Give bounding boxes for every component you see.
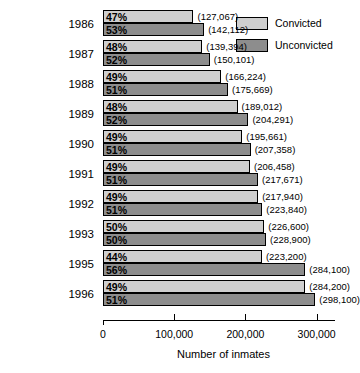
bar-percent-label: 44% (106, 250, 127, 264)
bar-unconvicted: 51% (103, 173, 258, 186)
bar-convicted: 48% (103, 100, 238, 113)
bar-percent-label: 52% (106, 113, 127, 127)
bar-percent-label: 56% (106, 263, 127, 277)
bar-percent-label: 50% (106, 220, 127, 234)
bar-unconvicted: 52% (103, 53, 210, 66)
bar-value-label: (127,067) (197, 10, 238, 23)
bar-value-label: (175,669) (232, 83, 273, 96)
bar-percent-label: 49% (106, 70, 127, 84)
bar-convicted: 49% (103, 70, 221, 83)
bar-value-label: (142,112) (208, 23, 248, 36)
x-axis-title: Number of inmates (0, 348, 357, 360)
bar-value-label: (284,100) (309, 263, 350, 276)
year-label: 1987 (0, 40, 98, 68)
bar-percent-label: 47% (106, 10, 127, 24)
x-axis-tick-label: 300,000 (298, 328, 336, 340)
bar-percent-label: 51% (106, 83, 127, 97)
x-axis-tick-label: 100,000 (155, 328, 193, 340)
bar-group: 198948%(189,012)52%(204,291) (0, 100, 357, 128)
bar-group: 199149%(206,458)51%(217,671) (0, 160, 357, 188)
bar-unconvicted: 51% (103, 83, 228, 96)
bar-convicted: 50% (103, 220, 264, 233)
bar-value-label: (150,101) (214, 53, 255, 66)
bar-value-label: (228,900) (270, 233, 311, 246)
year-label: 1991 (0, 160, 98, 188)
x-axis-tick (317, 314, 318, 321)
bars-container: 49%(217,940)51%(223,840) (103, 190, 357, 218)
bar-convicted: 49% (103, 160, 250, 173)
bar-unconvicted: 56% (103, 263, 305, 276)
bar-group: 198849%(166,224)51%(175,669) (0, 70, 357, 98)
bar-value-label: (195,661) (246, 130, 287, 143)
x-axis-title-text: Number of inmates (87, 348, 270, 360)
bar-value-label: (139,394) (206, 40, 247, 53)
bar-value-label: (223,840) (266, 203, 307, 216)
bar-percent-label: 48% (106, 100, 127, 114)
bar-percent-label: 51% (106, 293, 127, 307)
bars-container: 48%(139,394)52%(150,101) (103, 40, 357, 68)
year-label: 1996 (0, 280, 98, 308)
bars-container: 49%(206,458)51%(217,671) (103, 160, 357, 188)
bar-percent-label: 49% (106, 280, 127, 294)
year-label: 1990 (0, 130, 98, 158)
bar-group: 199544%(223,200)56%(284,100) (0, 250, 357, 278)
x-axis-line (103, 320, 335, 321)
bar-group: 198647%(127,067)53%(142,112) (0, 10, 357, 38)
bar-value-label: (298,100) (319, 293, 360, 306)
year-label: 1989 (0, 100, 98, 128)
bar-value-label: (189,012) (242, 100, 283, 113)
bar-percent-label: 51% (106, 143, 127, 157)
year-label: 1986 (0, 10, 98, 38)
bar-percent-label: 51% (106, 173, 127, 187)
bar-group: 199649%(284,200)51%(298,100) (0, 280, 357, 308)
x-axis-tick (245, 314, 246, 321)
bar-convicted: 49% (103, 280, 305, 293)
bar-value-label: (284,200) (309, 280, 350, 293)
bar-convicted: 48% (103, 40, 202, 53)
bars-container: 48%(189,012)52%(204,291) (103, 100, 357, 128)
bar-convicted: 49% (103, 190, 258, 203)
bar-unconvicted: 51% (103, 203, 262, 216)
bar-value-label: (204,291) (252, 113, 293, 126)
x-axis-tick-label: 200,000 (226, 328, 264, 340)
bars-container: 49%(284,200)51%(298,100) (103, 280, 357, 308)
year-label: 1988 (0, 70, 98, 98)
bars-container: 50%(226,600)50%(228,900) (103, 220, 357, 248)
bar-value-label: (217,940) (262, 190, 303, 203)
bar-unconvicted: 50% (103, 233, 266, 246)
bars-container: 49%(195,661)51%(207,358) (103, 130, 357, 158)
bar-unconvicted: 53% (103, 23, 204, 36)
bar-value-label: (207,358) (255, 143, 296, 156)
x-axis-left-cap (103, 320, 104, 325)
bars-container: 49%(166,224)51%(175,669) (103, 70, 357, 98)
bar-convicted: 44% (103, 250, 262, 263)
bar-percent-label: 52% (106, 53, 127, 67)
plot-area: 198647%(127,067)53%(142,112)198748%(139,… (0, 10, 357, 310)
bar-convicted: 49% (103, 130, 242, 143)
bar-value-label: (206,458) (254, 160, 295, 173)
year-label: 1995 (0, 250, 98, 278)
bar-value-label: (226,600) (268, 220, 309, 233)
bar-percent-label: 48% (106, 40, 127, 54)
bar-value-label: (166,224) (225, 70, 266, 83)
bar-group: 199350%(226,600)50%(228,900) (0, 220, 357, 248)
bars-container: 47%(127,067)53%(142,112) (103, 10, 357, 38)
bar-value-label: (217,671) (262, 173, 303, 186)
bar-convicted: 47% (103, 10, 193, 23)
bar-percent-label: 50% (106, 233, 127, 247)
bar-group: 199249%(217,940)51%(223,840) (0, 190, 357, 218)
bar-unconvicted: 51% (103, 293, 315, 306)
x-axis-tick (174, 314, 175, 321)
x-axis-tick-label: 0 (100, 328, 106, 340)
bar-group: 199049%(195,661)51%(207,358) (0, 130, 357, 158)
bar-percent-label: 49% (106, 160, 127, 174)
bar-percent-label: 51% (106, 203, 127, 217)
bar-value-label: (223,200) (266, 250, 307, 263)
bar-unconvicted: 52% (103, 113, 248, 126)
bar-percent-label: 53% (106, 23, 127, 37)
bars-container: 44%(223,200)56%(284,100) (103, 250, 357, 278)
year-label: 1992 (0, 190, 98, 218)
bar-percent-label: 49% (106, 130, 127, 144)
bar-group: 198748%(139,394)52%(150,101) (0, 40, 357, 68)
